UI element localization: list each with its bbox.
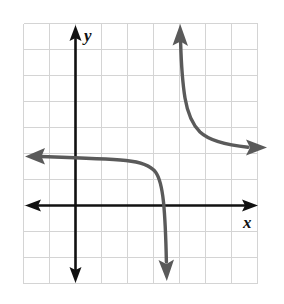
graph-figure: y x [0, 0, 284, 304]
grid-lines [24, 24, 258, 284]
curve-right-branch [173, 24, 268, 156]
right-branch-path [181, 42, 248, 147]
curve-left-branch [25, 148, 174, 281]
left-branch-path [40, 157, 166, 263]
x-axis-label: x [242, 213, 252, 232]
coordinate-graph: y x [0, 0, 284, 304]
y-axis-label: y [82, 26, 92, 45]
